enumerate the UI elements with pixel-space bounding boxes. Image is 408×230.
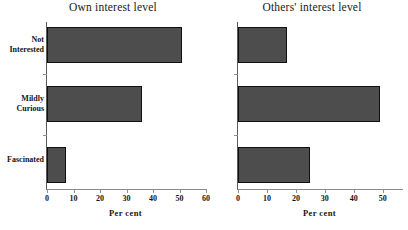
x-axis-tick-label: 0 — [45, 194, 49, 203]
bar — [47, 86, 142, 122]
x-axis-tick — [325, 189, 326, 193]
figure: Own interest level Not InterestedMildly … — [0, 0, 408, 230]
x-axis-tick-label: 30 — [321, 194, 329, 203]
x-axis-tick — [153, 189, 154, 193]
x-axis-tick-label: 0 — [236, 194, 240, 203]
category-label: Not Interested — [0, 35, 44, 55]
chart-panel-own: Own interest level Not InterestedMildly … — [0, 0, 204, 230]
plot-area-own: Not InterestedMildly CuriousFascinated01… — [46, 22, 206, 190]
x-axis-tick — [383, 189, 384, 193]
x-axis-tick — [238, 189, 239, 193]
y-axis-tick — [234, 135, 238, 136]
x-axis-tick-label: 40 — [350, 194, 358, 203]
x-axis-tick-label: 20 — [292, 194, 300, 203]
x-axis-tick-label: 30 — [123, 194, 131, 203]
x-axis-tick-label: 20 — [96, 194, 104, 203]
y-axis-tick — [234, 74, 238, 75]
x-axis-tick-label: 10 — [70, 194, 78, 203]
bar — [47, 147, 66, 183]
x-axis-tick-label: 50 — [176, 194, 184, 203]
plot-area-others: 01020304050 — [237, 22, 403, 190]
x-axis-tick — [296, 189, 297, 193]
category-label: Mildly Curious — [0, 94, 44, 114]
x-axis-tick-label: 40 — [149, 194, 157, 203]
bar — [238, 27, 287, 63]
bar — [238, 86, 380, 122]
category-label: Fascinated — [0, 155, 44, 165]
x-axis-tick — [74, 189, 75, 193]
x-axis-tick — [180, 189, 181, 193]
panel-title-own: Own interest level — [0, 1, 204, 13]
chart-panel-others: Others' interest level 01020304050 Per c… — [204, 0, 408, 230]
x-axis-tick — [267, 189, 268, 193]
bar — [238, 147, 310, 183]
x-axis-title-others: Per cent — [237, 208, 402, 218]
bar — [47, 27, 182, 63]
y-axis-tick — [43, 135, 47, 136]
panel-title-others: Others' interest level — [204, 1, 408, 13]
y-axis-tick — [43, 74, 47, 75]
x-axis-tick-label: 10 — [263, 194, 271, 203]
x-axis-tick — [47, 189, 48, 193]
x-axis-tick — [354, 189, 355, 193]
x-axis-tick — [127, 189, 128, 193]
x-axis-tick-label: 50 — [379, 194, 387, 203]
x-axis-title-own: Per cent — [46, 208, 205, 218]
x-axis-tick — [100, 189, 101, 193]
